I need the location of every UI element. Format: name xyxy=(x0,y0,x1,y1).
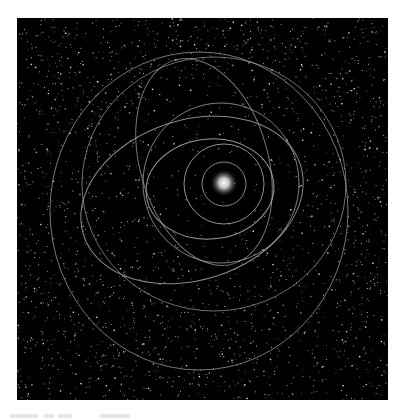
background-star xyxy=(24,118,25,119)
background-star xyxy=(97,364,98,365)
background-star xyxy=(111,287,112,288)
background-star xyxy=(58,142,59,143)
background-star xyxy=(102,356,103,357)
background-star xyxy=(234,354,235,355)
background-star xyxy=(353,114,354,115)
background-star xyxy=(185,125,186,126)
background-star xyxy=(276,298,277,299)
background-star xyxy=(124,173,125,174)
background-star xyxy=(293,230,294,231)
background-star xyxy=(130,328,131,329)
background-star xyxy=(31,44,32,45)
background-star xyxy=(132,370,133,371)
background-star xyxy=(85,234,86,235)
background-star xyxy=(335,251,336,252)
background-star xyxy=(353,205,354,206)
background-star xyxy=(248,115,249,116)
background-star xyxy=(323,366,324,367)
background-star xyxy=(179,85,180,86)
background-star xyxy=(195,339,196,340)
background-star xyxy=(40,224,41,225)
background-star xyxy=(56,66,57,67)
background-star xyxy=(144,307,145,308)
background-star xyxy=(219,386,220,387)
background-star xyxy=(240,142,241,143)
background-star xyxy=(325,34,326,35)
background-star xyxy=(231,107,232,108)
background-star xyxy=(93,76,94,77)
background-star xyxy=(58,110,59,111)
background-star xyxy=(31,348,32,349)
background-star xyxy=(232,362,233,363)
background-star xyxy=(363,360,364,361)
background-star xyxy=(167,68,168,69)
background-star xyxy=(269,311,270,312)
background-star xyxy=(147,174,148,175)
background-star xyxy=(345,366,346,367)
background-star xyxy=(152,257,153,258)
background-star xyxy=(179,326,180,327)
background-star xyxy=(83,90,84,91)
background-star xyxy=(279,350,280,351)
background-star xyxy=(372,385,373,386)
background-star xyxy=(148,144,149,145)
background-star xyxy=(365,231,366,232)
background-star xyxy=(100,279,101,280)
background-star xyxy=(246,232,247,233)
background-star xyxy=(290,31,291,32)
background-star xyxy=(266,121,267,122)
background-star xyxy=(119,62,120,63)
background-star xyxy=(60,390,61,391)
background-star xyxy=(117,19,118,20)
background-star xyxy=(209,115,210,116)
background-star xyxy=(158,268,159,269)
background-star xyxy=(138,179,139,180)
background-star xyxy=(42,193,43,194)
background-star xyxy=(301,313,302,314)
background-star xyxy=(373,77,374,78)
background-star xyxy=(281,230,282,231)
background-star xyxy=(78,271,79,272)
background-star xyxy=(65,331,66,332)
background-star xyxy=(38,84,39,85)
background-star xyxy=(80,63,81,64)
background-star xyxy=(267,97,268,98)
background-star xyxy=(164,250,165,251)
background-star xyxy=(191,53,192,54)
background-star xyxy=(89,283,90,284)
background-star xyxy=(18,327,19,328)
background-star xyxy=(153,177,154,178)
background-star xyxy=(258,30,259,31)
background-star xyxy=(292,108,293,109)
background-star xyxy=(295,46,296,47)
background-star xyxy=(189,140,190,141)
background-star xyxy=(74,272,75,273)
background-star xyxy=(229,347,230,348)
background-star xyxy=(223,291,224,292)
background-star xyxy=(264,371,265,372)
background-star xyxy=(105,323,106,324)
background-star xyxy=(61,57,62,58)
background-star xyxy=(112,295,113,296)
background-star xyxy=(259,295,260,296)
background-star xyxy=(348,358,349,359)
background-star xyxy=(345,341,346,342)
background-star xyxy=(132,146,133,147)
background-star xyxy=(254,78,255,79)
background-star xyxy=(180,46,181,47)
background-star xyxy=(375,369,376,370)
background-star xyxy=(228,266,229,267)
background-star xyxy=(92,21,93,22)
background-star xyxy=(78,268,79,269)
background-star xyxy=(250,21,251,22)
background-star xyxy=(365,149,366,150)
background-star xyxy=(344,341,345,342)
background-star xyxy=(311,217,312,218)
background-star xyxy=(19,387,20,388)
background-star xyxy=(386,137,387,138)
background-star xyxy=(122,46,123,47)
background-star xyxy=(58,94,59,95)
background-star xyxy=(317,98,318,99)
background-star xyxy=(350,294,351,295)
background-star xyxy=(85,130,86,131)
